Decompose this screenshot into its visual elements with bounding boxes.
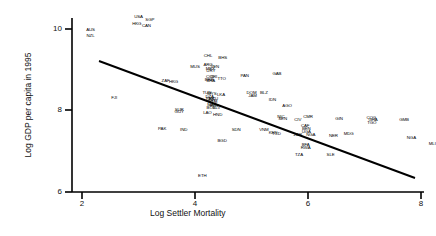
data-point-label: TTO [217,76,225,81]
y-tick-label-10: 10 [40,24,62,33]
data-point-label: LKA [217,93,225,98]
x-axis-label: Log Settler Mortality [150,208,226,218]
data-point-label: RWA [301,145,311,150]
data-point-label: BHS [218,55,227,60]
data-point-label: MDG [344,132,354,137]
data-point-label: TCD [272,132,281,137]
data-point-label: IDN [269,97,276,102]
data-point-label: GIN [335,116,343,121]
data-point-label: BLZ [260,90,268,95]
data-point-label: MLI [429,142,436,147]
data-point-label: ZAR [294,132,302,137]
data-point-label: HKG [132,21,141,26]
data-point-label: FJI [111,96,117,101]
data-point-label: IND [180,127,187,132]
data-point-label: CIV [294,117,301,122]
data-point-label: ETH [198,173,206,178]
data-point-label: GUY [175,110,184,115]
data-point-label: BGD [217,139,226,144]
data-point-label: SGP [145,18,154,23]
data-point-label: NGA [407,136,416,141]
data-point-label: NZL [87,34,95,39]
data-point-label: SLE [327,153,335,158]
data-point-label: CAN [142,24,151,29]
data-point-label: LAO [203,111,212,116]
data-point-label: AUS [86,28,95,33]
data-point-label: HND [213,112,222,117]
data-point-label: GMB [399,118,409,123]
data-point-label: CMR [303,115,313,120]
data-point-label: JAM [248,94,256,99]
x-tick-label-8: 8 [413,199,429,208]
data-point-label: NER [329,134,338,139]
data-point-label: USA [134,15,143,20]
x-tick-label-6: 6 [300,199,316,208]
data-point-label: NGA [306,132,315,137]
x-tick-label-4: 4 [187,199,203,208]
data-point-label: CHL [204,54,212,59]
data-point-label: AGO [282,104,291,109]
y-tick-label-6: 6 [40,187,62,196]
data-point-label: TGO [367,121,376,126]
x-tick-label-2: 2 [74,199,90,208]
data-point-label: SEN [278,117,287,122]
data-point-label: BRA [206,79,215,84]
data-point-label: SDN [232,128,241,133]
data-point-label: PAK [158,127,166,132]
data-point-label: VNM [259,128,268,133]
data-point-label: PAN [240,73,248,78]
y-tick-label-8: 8 [40,105,62,114]
data-point-label: MUS [190,65,199,70]
y-axis-label: Log GDP per capita in 1995 [23,15,33,195]
data-point-label: TZA [295,153,303,158]
data-point-label: GAB [272,72,281,77]
data-point-label: HKG [169,80,178,85]
